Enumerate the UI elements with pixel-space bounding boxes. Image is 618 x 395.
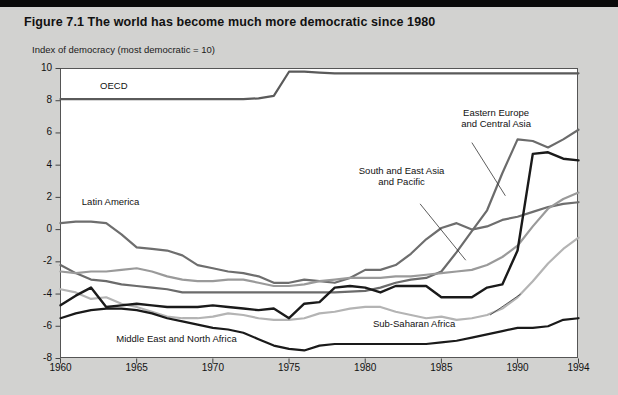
y-tick-label: -6 [26,320,52,331]
y-tick-label: 6 [26,126,52,137]
figure-page: Figure 7.1 The world has become much mor… [0,0,618,395]
series-annotation-mena: Middle East and North Africa [116,333,236,344]
y-tick-label: 0 [26,223,52,234]
page-top-rule [0,0,618,7]
series-annotation-latin: Latin America [82,196,140,207]
y-axis-caption: Index of democracy (most democratic = 10… [32,44,215,55]
x-tick-label: 1960 [41,362,81,373]
series-annotation-seasia: South and East Asia and Pacific [359,165,445,187]
x-tick-label: 1965 [117,362,157,373]
series-annotation-ssa: Sub-Saharan Africa [373,318,455,329]
x-tick-label: 1980 [345,362,385,373]
y-tick-label: -4 [26,288,52,299]
x-tick-label: 1994 [559,362,599,373]
y-tick-label: 4 [26,159,52,170]
series-annotation-eeca: Eastern Europe and Central Asia [461,107,531,129]
x-tick-label: 1975 [269,362,309,373]
x-tick-label: 1985 [421,362,461,373]
y-tick-label: -2 [26,255,52,266]
series-annotation-oecd: OECD [100,80,127,91]
x-tick-label: 1970 [193,362,233,373]
x-tick-label: 1990 [498,362,538,373]
y-tick-label: 2 [26,191,52,202]
figure-title: Figure 7.1 The world has become much mor… [24,15,435,29]
y-tick-label: 10 [26,62,52,73]
y-tick-label: 8 [26,94,52,105]
